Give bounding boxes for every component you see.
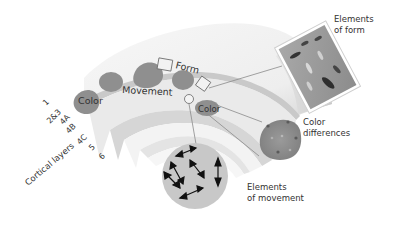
callout-form-line1: Elements xyxy=(334,14,374,24)
callout-movement-line2: of movement xyxy=(247,193,305,203)
layer-label-1: 1 xyxy=(41,97,51,107)
callout-form-line2: of form xyxy=(334,25,365,35)
movement-blob-1 xyxy=(99,72,123,92)
callout-color-line1: Color xyxy=(303,117,326,127)
layer-label-4c: 4C xyxy=(75,132,89,146)
callout-color-line2: differences xyxy=(303,128,351,138)
form-square-1 xyxy=(157,58,173,71)
cortex-diagram: Color Movement Form Color Elements of fo… xyxy=(0,0,394,226)
callout-movement-line1: Elements xyxy=(247,182,287,192)
layer-label-6: 6 xyxy=(97,151,107,161)
layer-label-5: 5 xyxy=(87,142,97,152)
movement-disc xyxy=(162,143,228,209)
label-color-left: Color xyxy=(78,95,103,106)
movement-sample-circle xyxy=(185,95,194,104)
cortical-layers-axis-label: Cortical layers xyxy=(23,140,77,187)
